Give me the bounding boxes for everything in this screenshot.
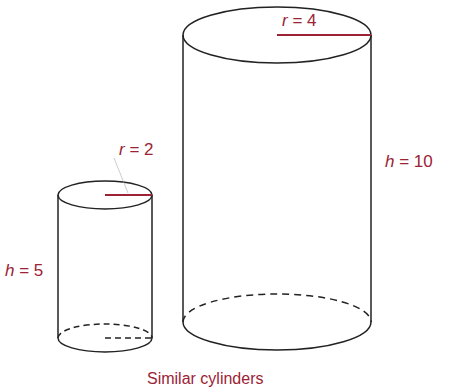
large-height-label: h = 10 bbox=[385, 152, 433, 172]
small-height-label: h = 5 bbox=[5, 261, 43, 281]
large-radius-label: r = 4 bbox=[282, 11, 317, 31]
large-cylinder bbox=[183, 7, 371, 350]
small-radius-label: r = 2 bbox=[119, 140, 154, 160]
small-radius-pointer bbox=[114, 158, 128, 193]
small-cylinder bbox=[58, 181, 152, 352]
caption: Similar cylinders bbox=[147, 370, 263, 388]
